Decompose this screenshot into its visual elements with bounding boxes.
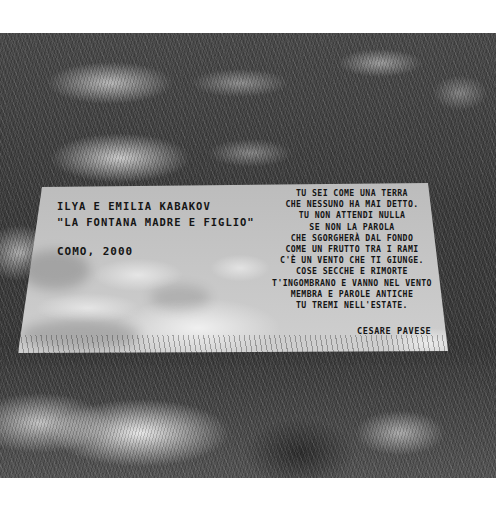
poem-line: CHE NESSUNO HA MAI DETTO. xyxy=(262,199,442,210)
poem: TU SEI COME UNA TERRA CHE NESSUNO HA MAI… xyxy=(262,188,442,311)
plaque-left-inscription: ILYA E EMILIA KABAKOV "LA FONTANA MADRE … xyxy=(57,198,255,260)
poem-line: COME UN FRUTTO TRA I RAMI xyxy=(262,244,442,255)
poem-line: COSE SECCHE E RIMORTE xyxy=(262,266,442,277)
poem-line: TU TREMI NELL'ESTATE. xyxy=(262,300,442,311)
poem-line: TU NON ATTENDI NULLA xyxy=(262,210,442,221)
place-date: COMO, 2000 xyxy=(57,244,255,260)
poem-line: C'È UN VENTO CHE TI GIUNGE. xyxy=(262,255,442,266)
poem-line: SE NON LA PAROLA xyxy=(262,222,442,233)
work-title: "LA FONTANA MADRE E FIGLIO" xyxy=(57,214,255,230)
poem-author: CESARE PAVESE xyxy=(357,326,431,336)
poem-line: T'INGOMBRANO E VANNO NEL VENTO xyxy=(262,278,442,289)
poem-line: TU SEI COME UNA TERRA xyxy=(262,188,442,199)
poem-line: CHE SGORGHERÀ DAL FONDO xyxy=(262,233,442,244)
poem-line: MEMBRA E PAROLE ANTICHE xyxy=(262,289,442,300)
artists-name: ILYA E EMILIA KABAKOV xyxy=(57,198,255,214)
